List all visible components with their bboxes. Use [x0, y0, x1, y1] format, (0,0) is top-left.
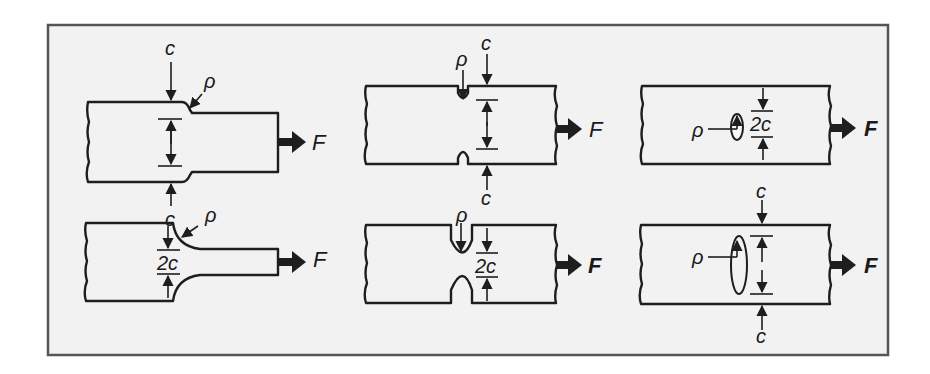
label-force: F	[312, 130, 327, 155]
label-rho: ρ	[691, 119, 703, 141]
label-c-top: c	[756, 180, 766, 202]
force-arrow-shaft	[831, 261, 843, 269]
label-2c: 2c	[749, 113, 771, 135]
label-rho: ρ	[455, 204, 467, 226]
force-arrow-shaft	[831, 124, 843, 132]
label-c-top: c	[165, 37, 175, 59]
label-c-bottom: c	[756, 325, 766, 347]
label-force: F	[313, 247, 328, 272]
label-c-bottom: c	[481, 187, 491, 209]
label-force: F	[589, 117, 604, 142]
label-2c: 2c	[474, 255, 496, 277]
force-arrow-shaft	[279, 138, 293, 146]
force-arrow-shaft	[279, 258, 293, 266]
label-force: F	[864, 116, 878, 141]
label-c-top: c	[481, 32, 491, 54]
label-force: F	[864, 253, 878, 278]
label-force: F	[588, 253, 602, 278]
label-rho: ρ	[203, 70, 215, 92]
label-rho: ρ	[455, 48, 467, 70]
force-arrow-shaft	[557, 261, 569, 269]
label-2c: 2c	[156, 252, 178, 274]
label-rho: ρ	[691, 246, 703, 268]
force-arrow-shaft	[557, 125, 569, 133]
stress-concentration-diagram: c c ρ F c c ρ F 2c ρ F	[0, 0, 930, 374]
label-rho: ρ	[204, 204, 216, 226]
